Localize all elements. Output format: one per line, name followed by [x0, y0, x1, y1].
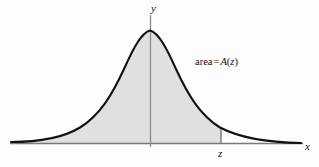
area-annotation: area=A(z)	[195, 57, 238, 68]
y-axis-label: y	[151, 3, 156, 14]
z-tick-label: z	[218, 148, 222, 159]
normal-curve-plot	[0, 0, 319, 167]
x-axis-label: x	[305, 141, 310, 152]
area-annotation-prefix: area	[195, 56, 212, 67]
area-annotation-close-paren: )	[234, 56, 238, 67]
normal-distribution-figure: y x z area=A(z)	[0, 0, 319, 167]
